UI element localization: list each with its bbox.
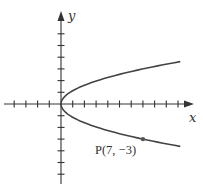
x-axis-arrow-icon [184, 101, 194, 108]
parabola-graph: x y P(7, −3) [0, 0, 203, 188]
x-axis-label: x [189, 110, 197, 125]
point-p-label: P(7, −3) [95, 143, 136, 157]
x-axis [4, 101, 194, 108]
y-axis-arrow-icon [58, 11, 65, 21]
point-p-marker [141, 137, 145, 141]
y-axis-label: y [67, 8, 76, 23]
